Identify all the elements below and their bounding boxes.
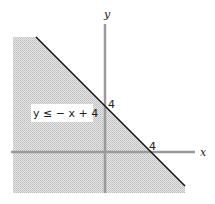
inequality-graph: y ≤ − x + 4 4 4 x y bbox=[0, 0, 215, 204]
x-axis-label: x bbox=[200, 146, 207, 159]
y-intercept-label: 4 bbox=[108, 98, 115, 111]
y-axis-label: y bbox=[103, 8, 111, 21]
inequality-label: y ≤ − x + 4 bbox=[33, 107, 98, 120]
x-intercept-label: 4 bbox=[149, 140, 156, 153]
